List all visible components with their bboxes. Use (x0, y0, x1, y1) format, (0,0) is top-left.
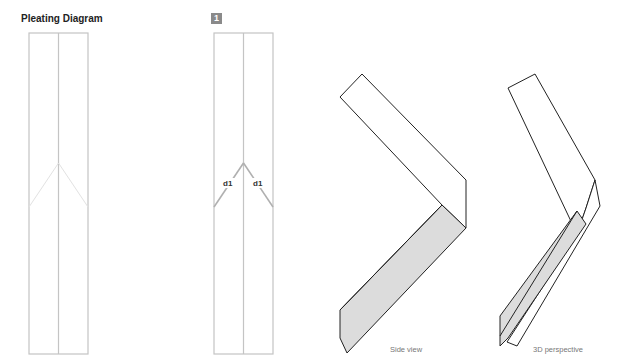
pleating-drawings: d1 d1 (0, 0, 627, 356)
perspective-drawing (500, 74, 600, 346)
caption-side-view: Side view (390, 345, 422, 354)
side-view-drawing (340, 74, 466, 353)
fold-label-right: d1 (253, 179, 263, 188)
fold-label-left: d1 (223, 179, 233, 188)
caption-3d-perspective: 3D perspective (533, 345, 583, 354)
strip-unfolded (29, 33, 88, 354)
strip-step-1: d1 d1 (214, 33, 273, 354)
